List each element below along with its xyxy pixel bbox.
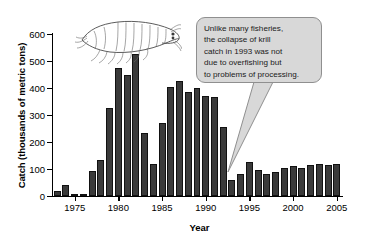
bar	[167, 87, 174, 196]
x-axis-ticks: 1975198019851990199520002005	[52, 197, 343, 217]
x-tick-label: 1980	[108, 202, 129, 213]
y-tick-label: 100	[29, 164, 45, 175]
bar	[89, 171, 96, 196]
y-tick-mark	[47, 34, 52, 35]
y-tick-label: 600	[29, 29, 45, 40]
x-axis-title: Year	[52, 222, 347, 233]
x-tick-mark	[118, 197, 119, 201]
bar	[307, 165, 314, 196]
annotation-text: Unlike many fisheries, the collapse of k…	[204, 23, 315, 80]
bar	[255, 170, 262, 196]
bar	[281, 168, 288, 196]
x-tick-mark	[293, 197, 294, 201]
bar	[80, 194, 87, 196]
x-tick-label: 2005	[326, 202, 347, 213]
bar	[298, 168, 305, 196]
bar	[71, 194, 78, 196]
bar	[132, 54, 139, 196]
x-tick-mark	[162, 197, 163, 201]
bar	[246, 162, 253, 196]
x-tick-label: 1975	[64, 202, 85, 213]
y-tick-mark	[47, 115, 52, 116]
bar	[290, 166, 297, 197]
y-axis-title: Catch (thousands of metric tons)	[16, 28, 27, 203]
bar	[325, 165, 332, 196]
bar	[263, 174, 270, 196]
bar	[220, 127, 227, 196]
bar	[176, 81, 183, 196]
x-tick-mark	[249, 197, 250, 201]
bar	[316, 164, 323, 196]
bar	[150, 164, 157, 196]
y-tick-label: 200	[29, 137, 45, 148]
x-tick-label: 1985	[151, 202, 172, 213]
y-tick-label: 500	[29, 56, 45, 67]
y-tick-mark	[47, 142, 52, 143]
bar	[228, 180, 235, 196]
bar	[159, 123, 166, 196]
bar	[237, 174, 244, 196]
x-tick-mark	[206, 197, 207, 201]
y-tick-label: 0	[40, 191, 45, 202]
x-tick-label: 1995	[239, 202, 260, 213]
bar	[97, 160, 104, 196]
y-tick-label: 300	[29, 110, 45, 121]
bar	[141, 133, 148, 196]
bar	[202, 96, 209, 196]
bar	[115, 68, 122, 196]
bar	[211, 97, 218, 196]
x-tick-label: 1990	[195, 202, 216, 213]
x-tick-mark	[337, 197, 338, 201]
y-tick-label: 400	[29, 83, 45, 94]
bar	[106, 108, 113, 196]
x-tick-label: 2000	[283, 202, 304, 213]
bar	[124, 75, 131, 196]
bar	[185, 92, 192, 196]
bar	[333, 164, 340, 196]
x-tick-mark	[75, 197, 76, 201]
y-tick-mark	[47, 61, 52, 62]
bar	[62, 185, 69, 196]
y-tick-mark	[47, 88, 52, 89]
y-tick-mark	[47, 169, 52, 170]
bar	[194, 88, 201, 196]
bar	[272, 172, 279, 196]
bar	[54, 191, 61, 196]
krill-catch-chart: Catch (thousands of metric tons) Year 01…	[0, 0, 367, 242]
annotation-callout: Unlike many fisheries, the collapse of k…	[196, 17, 322, 83]
